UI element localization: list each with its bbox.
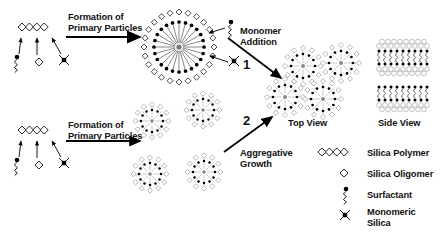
primary-particle [185,153,223,191]
primary-particle [133,102,171,140]
top-view-aggregate [264,42,361,119]
diagram-graphics [0,0,443,235]
legend-silica-oligomer-icon [340,169,348,177]
lamellar-bilayer [377,39,430,76]
pathway-1-arrow [228,38,281,78]
aggregate-particle [264,76,305,117]
legend-silica-polymer-icon [318,148,348,156]
reactant-arrows-top [19,38,61,55]
legend-surfactant-icon [343,187,348,205]
silica-oligomer-icon-2 [35,161,43,169]
surfactant-icon [14,55,19,73]
reactant-arrows-bottom [19,141,61,158]
legend-glyphs [318,148,350,220]
primary-particle-large [141,9,217,85]
aggregate-particle [302,78,343,119]
feed-monomeric-silica-icon [229,56,239,66]
silica-polymer-icon-2 [18,126,48,134]
primary-particles-dispersed [131,91,223,193]
silica-polymer-icon [18,23,48,31]
pathway-2-arrow [224,117,272,152]
aggregate-particle [320,42,361,83]
surfactant-icon-2 [14,158,19,176]
primary-particle [131,155,169,193]
monomeric-silica-icon [59,55,69,65]
reactants-top [14,23,140,73]
primary-particle [184,91,222,129]
reactants-bottom [14,126,140,176]
feed-surfactant-icon [228,20,233,38]
aggregate-particle [282,45,323,86]
monomer-feed-arrows [209,28,228,62]
legend-monomeric-silica-icon [340,210,350,220]
diagram-canvas: Formation of Primary Particles Formation… [0,0,443,235]
side-view-lamellar [377,39,430,112]
silica-oligomer-icon [35,58,43,66]
lamellar-bilayer [377,86,430,112]
monomeric-silica-icon-2 [59,158,69,168]
